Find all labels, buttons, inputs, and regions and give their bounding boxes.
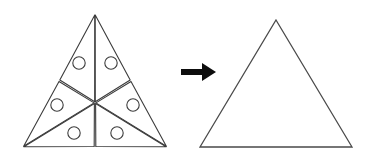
diagram-canvas <box>0 0 369 159</box>
piece-top-left-circle <box>73 57 85 69</box>
segmented-triangle-group <box>24 15 167 147</box>
piece-bottom-right-circle <box>111 127 123 139</box>
transformation-diagram <box>0 0 369 159</box>
piece-mid-left-circle <box>51 99 63 111</box>
piece-top-right-circle <box>105 57 117 69</box>
piece-mid-right-circle <box>127 99 139 111</box>
piece-bottom-left-circle <box>68 127 80 139</box>
rightward-arrow <box>181 63 216 81</box>
arrow-shaft <box>181 69 203 75</box>
plain-triangle-group <box>200 20 352 147</box>
arrow-head-icon <box>202 63 216 81</box>
plain-triangle-shape <box>200 20 352 147</box>
